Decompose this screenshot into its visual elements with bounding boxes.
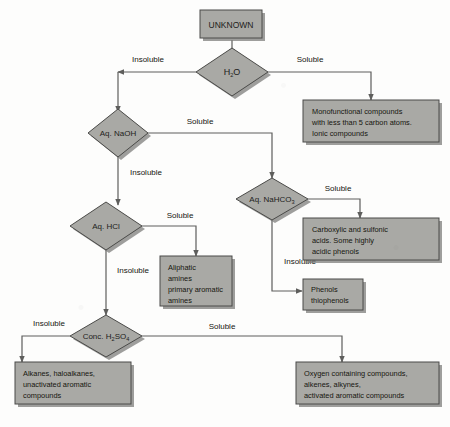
oxygen-line-3: activated aromatic compounds — [304, 391, 405, 400]
node-h2o-test[interactable]: H2O — [196, 48, 271, 99]
result-carboxylic[interactable]: Carboxylic and sulfonic acids. Some high… — [303, 218, 442, 263]
h2so4-label: Conc. H2SO4 — [83, 332, 130, 342]
nahco3-label: Aq. NaHCO3 — [249, 195, 294, 205]
edge-label-h2o-soluble: Soluble — [297, 55, 324, 64]
edge-label-nahco3-soluble: Soluble — [325, 184, 352, 193]
amines-line-3: primary aromatic — [168, 285, 223, 294]
node-naoh-test[interactable]: Aq. NaOH — [88, 109, 151, 160]
result-alkanes[interactable]: Alkanes, haloalkanes, unactivated aromat… — [15, 362, 134, 407]
result-amines[interactable]: Aliphatic amines primary aromatic amines — [160, 256, 235, 309]
edge-nahco3-insoluble — [272, 220, 302, 291]
carboxylic-line-1: Carboxylic and sulfonic — [312, 225, 388, 234]
edge-label-h2o-insoluble: Insoluble — [132, 55, 165, 64]
edge-h2o-soluble — [268, 72, 371, 100]
node-nahco3-test[interactable]: Aq. NaHCO3 — [236, 178, 311, 223]
amines-line-4: amines — [168, 296, 192, 305]
phenols-box — [303, 279, 363, 310]
carboxylic-line-3: acidic phenols — [312, 247, 359, 256]
node-unknown[interactable]: UNKNOWN — [200, 10, 265, 41]
result-monofunctional[interactable]: Monofunctional compounds with less than … — [303, 100, 442, 145]
edge-label-h2so4-soluble: Soluble — [209, 322, 236, 331]
alkanes-line-3: compounds — [23, 391, 62, 400]
monofunctional-line-3: Ionic compounds — [312, 129, 368, 138]
node-hcl-test[interactable]: Aq. HCl — [70, 202, 145, 253]
phenols-line-1: Phenols — [311, 285, 338, 294]
naoh-label: Aq. NaOH — [100, 129, 137, 138]
result-phenols[interactable]: Phenols thiophenols — [303, 279, 366, 313]
edge-h2so4-insoluble — [22, 336, 70, 362]
edge-naoh-soluble — [148, 133, 272, 178]
hcl-label: Aq. HCl — [92, 222, 120, 231]
oxygen-line-1: Oxygen containing compounds, — [304, 369, 408, 378]
edge-hcl-soluble — [142, 226, 196, 256]
amines-line-1: Aliphatic — [168, 263, 196, 272]
solubility-flowchart: Insoluble Soluble Soluble Insoluble Solu… — [0, 0, 450, 427]
connectors — [22, 40, 371, 362]
edge-label-hcl-soluble: Soluble — [167, 211, 194, 220]
alkanes-line-1: Alkanes, haloalkanes, — [23, 369, 95, 378]
oxygen-line-2: alkenes, alkynes, — [304, 380, 361, 389]
amines-line-2: amines — [168, 274, 192, 283]
edge-label-naoh-insoluble: Insoluble — [130, 168, 163, 177]
monofunctional-line-2: with less than 5 carbon atoms. — [311, 118, 412, 127]
edge-nahco3-soluble — [308, 199, 360, 218]
unknown-label: UNKNOWN — [209, 20, 254, 30]
phenols-line-2: thiophenols — [311, 296, 349, 305]
edge-label-hcl-insoluble: Insoluble — [117, 266, 150, 275]
edge-label-h2so4-insoluble: Insoluble — [33, 319, 66, 328]
monofunctional-line-1: Monofunctional compounds — [312, 107, 403, 116]
edge-h2so4-soluble — [142, 336, 342, 362]
node-h2so4-test[interactable]: Conc. H2SO4 — [70, 315, 145, 360]
alkanes-line-2: unactivated aromatic — [23, 380, 91, 389]
edge-label-naoh-soluble: Soluble — [187, 117, 214, 126]
carboxylic-line-2: acids. Some highly — [312, 236, 374, 245]
result-oxygen[interactable]: Oxygen containing compounds, alkenes, al… — [296, 362, 442, 407]
